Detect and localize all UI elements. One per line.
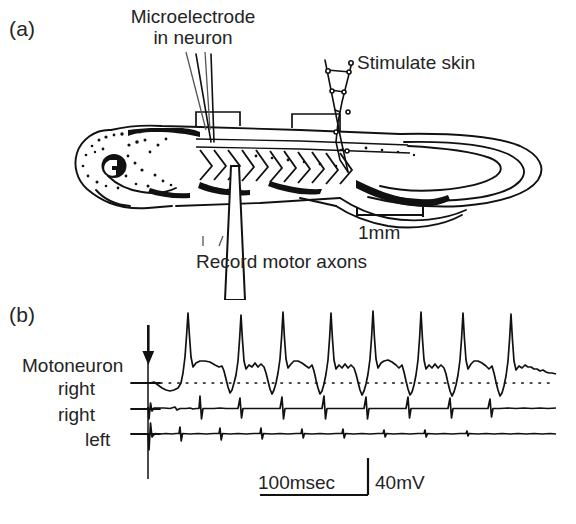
microelectrode-label: Microelectrode in neuron (113, 6, 273, 49)
record-leader-lines (203, 236, 223, 246)
scale-bar-label: 1mm (358, 222, 400, 243)
trace-label-right-intracellular: right (58, 378, 95, 399)
head-stipple (82, 127, 200, 199)
microelectrode-label-line2: in neuron (113, 27, 273, 48)
figure-panel-container: (a) Microelectrode in neuron Stimulate s… (0, 0, 576, 524)
stimulate-skin-label: Stimulate skin (357, 52, 475, 73)
trace-label-right-ventral-root: right (58, 404, 95, 425)
motoneuron-trace-label: Motoneuron (22, 355, 123, 376)
tail-fin (300, 134, 541, 228)
microelectrode-label-line1: Microelectrode (113, 6, 273, 27)
time-calibration-label: 100msec (258, 472, 335, 493)
voltage-calibration-label: 40mV (375, 472, 425, 493)
trace-ventral-root-left (148, 423, 556, 450)
trace-motoneuron-right (150, 311, 556, 396)
record-motor-axons-label: Record motor axons (196, 251, 367, 272)
eye (102, 154, 127, 178)
panel-b-label: (b) (9, 303, 35, 327)
trace-ventral-root-right (148, 396, 556, 419)
trace-label-left-ventral-root: left (85, 429, 110, 450)
microelectrode-icon (196, 54, 214, 142)
suction-electrode-icon (225, 166, 245, 300)
panel-a-label: (a) (9, 17, 35, 41)
stimulus-arrow-icon (142, 325, 154, 365)
stimulating-electrode-icon (325, 60, 353, 172)
